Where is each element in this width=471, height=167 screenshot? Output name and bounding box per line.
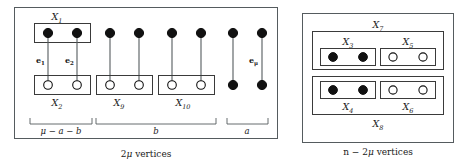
label-x3: X3 (342, 36, 354, 50)
label-e1: e1 (36, 55, 45, 66)
label-e2: e2 (65, 55, 74, 66)
figure-canvas: X1 e1 e2 X2 X9 (0, 0, 471, 167)
node-open-x5-a (389, 53, 397, 61)
node-filled-x4-b (359, 86, 368, 95)
node-open-x10-b (197, 81, 206, 90)
node-filled-x3-a (329, 53, 338, 62)
box-x7 (313, 32, 444, 70)
box-x2 (35, 76, 91, 95)
node-open-x9-a (106, 81, 115, 90)
node-open-x2-b (73, 81, 82, 90)
node-filled-g4-c (228, 80, 237, 89)
node-filled-g3-b (196, 28, 205, 37)
node-filled-g2-a (105, 28, 114, 37)
node-filled-x3-b (359, 53, 368, 62)
left-group-1: X1 e1 e2 X2 (35, 11, 91, 111)
left-panel: X1 e1 e2 X2 X9 (15, 8, 278, 160)
node-open-x10-a (168, 81, 177, 90)
left-group-2: X9 (97, 28, 153, 110)
left-braces: μ − a − b b a (30, 118, 268, 136)
label-x7: X7 (372, 19, 385, 33)
brace-3-label: a (244, 126, 249, 136)
brace-2-line (96, 118, 216, 124)
node-open-x2-a (44, 81, 53, 90)
right-panel: X7 X3 X5 X8 X4 X6 n − 2μ vertice (303, 14, 454, 158)
label-x10: X10 (174, 97, 190, 111)
node-filled-g2-b (134, 28, 143, 37)
node-filled-g4-a (228, 28, 237, 37)
left-panel-caption: 2μ vertices (121, 149, 172, 159)
brace-2-label: b (153, 126, 158, 136)
node-open-x6-b (419, 86, 427, 94)
node-filled-g4-d (257, 80, 266, 89)
left-group-4: eμ (228, 28, 266, 89)
left-group-3: X10 (159, 28, 215, 110)
node-filled-x4-a (329, 86, 338, 95)
node-filled-g3-a (167, 28, 176, 37)
box-x9 (97, 76, 153, 95)
node-open-x5-b (419, 53, 427, 61)
box-x10 (159, 76, 215, 95)
brace-1-line (30, 118, 92, 124)
label-e-mu: eμ (249, 55, 258, 67)
node-filled-x1-a (43, 28, 52, 37)
left-panel-border (15, 8, 278, 139)
node-filled-x1-b (72, 28, 81, 37)
label-x9: X9 (113, 97, 125, 111)
node-open-x9-b (135, 81, 144, 90)
box-x8 (313, 77, 444, 115)
brace-3-line (227, 118, 268, 124)
label-x6: X6 (402, 101, 414, 115)
node-open-x6-a (389, 86, 397, 94)
label-x1: X1 (51, 11, 63, 25)
label-x4: X4 (342, 101, 354, 115)
label-x5: X5 (402, 36, 414, 50)
label-x8: X8 (372, 118, 384, 132)
label-x2: X2 (51, 97, 63, 111)
right-panel-caption: n − 2μ vertices (343, 147, 413, 157)
brace-1-label: μ − a − b (40, 126, 81, 136)
node-filled-g4-b (257, 28, 266, 37)
